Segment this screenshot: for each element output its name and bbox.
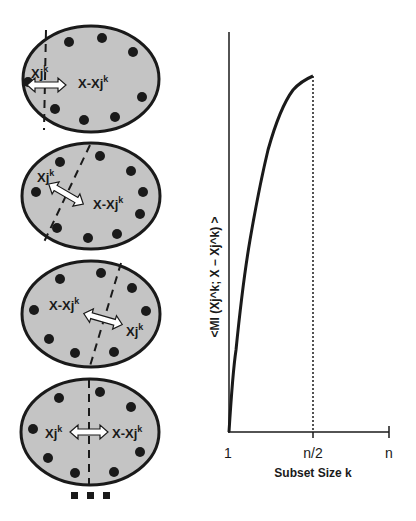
partition-ellipse-2: Xjk X-Xjk	[22, 143, 160, 249]
mi-curve	[229, 76, 313, 432]
partition-ellipse-4: Xjk X-Xjk	[21, 379, 159, 486]
set-ellipse	[22, 143, 160, 249]
continuation-ellipsis	[71, 492, 110, 499]
mi-chart: 1 n/2 n Subset Size k <MI (Xj^k; X − Xj^…	[208, 32, 393, 480]
y-axis-title: <MI (Xj^k; X − Xj^k) >	[208, 216, 222, 337]
x-tick-label-n: n	[385, 445, 393, 461]
partition-ellipse-1: Xjk X-Xjk	[23, 26, 159, 132]
figure-canvas: Xjk X-Xjk Xjk X-Xjk X-Xjk Xjk	[0, 0, 416, 521]
x-tick-label-half: n/2	[303, 445, 323, 461]
x-tick-label-1: 1	[224, 445, 232, 461]
partition-ellipse-3: X-Xjk Xjk	[22, 261, 160, 367]
x-axis-title: Subset Size k	[274, 466, 352, 480]
